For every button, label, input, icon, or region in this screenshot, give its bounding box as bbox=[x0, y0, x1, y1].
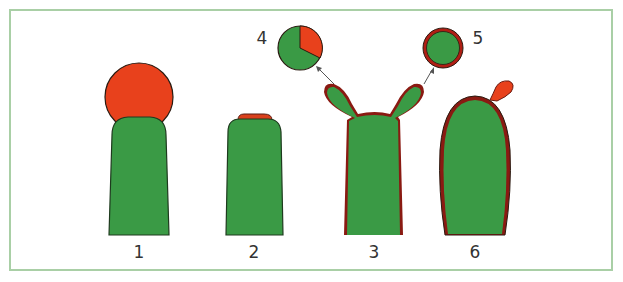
inset-label-4: 4 bbox=[257, 30, 268, 47]
panel-3-illustration bbox=[316, 66, 434, 235]
panel-1-illustration bbox=[105, 63, 173, 235]
inset-4-pie bbox=[278, 26, 322, 70]
panel-label-2: 2 bbox=[249, 244, 260, 261]
inset-label-5: 5 bbox=[473, 30, 484, 47]
panel-label-1: 1 bbox=[134, 244, 145, 261]
panel-6-illustration bbox=[440, 81, 514, 235]
panel-label-6: 6 bbox=[470, 244, 481, 261]
inset-5-ring bbox=[423, 28, 463, 68]
panel-2-illustration bbox=[226, 114, 283, 235]
panel-label-3: 3 bbox=[369, 244, 380, 261]
cell-diagram bbox=[0, 0, 623, 282]
